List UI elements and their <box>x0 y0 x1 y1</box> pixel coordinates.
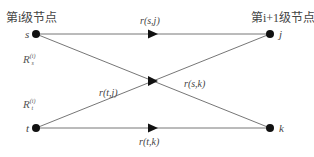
resource-label-s-sup: (i) <box>30 53 36 59</box>
resource-label-t-base: R <box>23 98 30 110</box>
edge-label-t-j: r(t,j) <box>99 88 118 98</box>
resource-label-s: R(i)s <box>23 53 34 66</box>
node-j <box>266 30 274 38</box>
arrow-s-j-icon <box>148 30 158 39</box>
header-level-i: 第i级节点 <box>6 12 57 24</box>
resource-label-t-sub: t <box>31 105 33 111</box>
resource-label-t-sup: (i) <box>30 98 36 104</box>
edge-label-t-k: r(t,k) <box>139 137 159 147</box>
arrow-t-k-icon <box>148 124 158 133</box>
node-label-k: k <box>279 123 284 134</box>
resource-label-t: R(i)t <box>23 98 33 111</box>
node-s <box>32 30 40 38</box>
node-label-s: s <box>25 29 29 40</box>
resource-label-s-sub: s <box>31 60 33 66</box>
arrowheads <box>148 30 158 133</box>
node-label-t: t <box>26 123 29 134</box>
header-level-i-plus-1: 第i+1级节点 <box>251 12 314 24</box>
resource-label-s-base: R <box>23 53 30 65</box>
node-k <box>266 124 274 132</box>
node-t <box>32 124 40 132</box>
edge-label-s-k: r(s,k) <box>184 79 205 89</box>
arrow-cross-icon <box>148 76 158 86</box>
node-label-j: j <box>279 29 282 40</box>
edge-label-s-j: r(s,j) <box>140 16 160 26</box>
